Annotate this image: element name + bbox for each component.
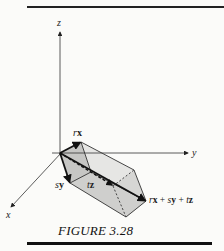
label-sum: rx + sy + tz (149, 196, 193, 206)
z-axis-label: z (57, 18, 61, 28)
bottom-rule (27, 242, 212, 245)
y-axis-label: y (192, 148, 196, 158)
label-sy: sy (55, 180, 64, 190)
parallelepiped-diagram (0, 0, 224, 251)
label-tz: tz (87, 180, 94, 190)
label-rx: rx (73, 128, 82, 138)
figure-caption: FIGURE 3.28 (58, 223, 133, 239)
x-axis-label: x (6, 210, 10, 220)
